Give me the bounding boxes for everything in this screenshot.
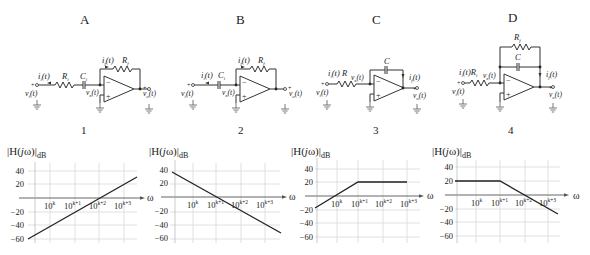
circuit-number-4: 4 xyxy=(508,124,514,136)
svg-text:10k: 10k xyxy=(331,198,343,209)
svg-text:Rf: Rf xyxy=(121,55,129,66)
svg-text:Ci: Ci xyxy=(218,70,226,81)
plot-title: |H(jω)|dB xyxy=(291,145,330,160)
opamp-b xyxy=(240,76,270,102)
opamp-c xyxy=(374,75,404,101)
plot-title: |H(jω)|dB xyxy=(432,145,471,160)
resistor-rf xyxy=(113,66,132,72)
resistor-rf xyxy=(512,44,531,50)
circuit-letter-b: B xyxy=(236,12,245,27)
plot-title: |H(jω)|dB xyxy=(149,145,188,160)
svg-text:40: 40 xyxy=(305,164,314,174)
svg-text:−40: −40 xyxy=(155,220,168,230)
circuit-letter-a: A xyxy=(80,12,90,27)
svg-text:ii(t)Ri: ii(t)Ri xyxy=(459,67,478,78)
figure: − + A 1 + xyxy=(0,0,590,255)
svg-text:−20: −20 xyxy=(11,207,24,217)
svg-text:vo(t): vo(t) xyxy=(413,91,426,101)
svg-text:20: 20 xyxy=(445,176,454,186)
svg-text:vo(t): vo(t) xyxy=(549,90,562,100)
svg-text:−40: −40 xyxy=(11,220,24,230)
omega-label: ω xyxy=(147,192,154,203)
current-arrow-icon xyxy=(402,74,405,78)
svg-text:vx(t): vx(t) xyxy=(86,88,99,98)
svg-text:+: + xyxy=(457,80,461,86)
svg-text:−20: −20 xyxy=(155,206,168,216)
svg-text:20: 20 xyxy=(305,177,314,187)
svg-text:10k+2: 10k+2 xyxy=(375,198,392,209)
svg-text:vo(t): vo(t) xyxy=(143,89,156,99)
svg-text:−60: −60 xyxy=(300,232,313,242)
bode-plot-2: |H(jω)|dB ω 40 20 −20 −40 −60 10k 10k+1 … xyxy=(149,145,296,243)
resistor-rf xyxy=(250,66,269,72)
svg-text:ii(t) R: ii(t) R xyxy=(328,68,348,79)
bode-plot-1: |H(jω)|dB ω 40 20 −20 −40 −60 10k 10k+1 … xyxy=(7,145,154,244)
svg-text:20: 20 xyxy=(16,179,25,189)
magnitude-line xyxy=(315,182,407,208)
svg-text:40: 40 xyxy=(160,165,169,175)
opamp-a xyxy=(104,76,134,102)
svg-text:ii(t): ii(t) xyxy=(38,71,50,82)
svg-text:+: + xyxy=(187,82,191,88)
svg-text:10k+3: 10k+3 xyxy=(114,200,131,211)
circuit-d: D 4 + Rf C ii(t)Ri vx(t) if(t) xyxy=(452,10,562,136)
svg-text:vx(t): vx(t) xyxy=(222,88,235,98)
svg-text:−40: −40 xyxy=(300,218,313,228)
svg-text:20: 20 xyxy=(160,178,169,188)
circuit-number-1: 1 xyxy=(81,124,87,136)
svg-text:10k+1: 10k+1 xyxy=(64,200,81,211)
svg-text:+: + xyxy=(321,81,325,87)
svg-text:Rf: Rf xyxy=(257,55,265,66)
svg-text:if(t): if(t) xyxy=(238,55,250,66)
circuit-number-3: 3 xyxy=(373,124,379,136)
svg-text:if(t): if(t) xyxy=(409,73,421,83)
svg-text:−60: −60 xyxy=(11,234,24,244)
svg-text:10k: 10k xyxy=(187,199,199,210)
omega-label: ω xyxy=(573,190,580,201)
circuit-letter-d: D xyxy=(508,10,517,25)
svg-text:if(t): if(t) xyxy=(102,55,114,66)
svg-text:10k+2: 10k+2 xyxy=(231,199,248,210)
svg-text:vo(t): vo(t) xyxy=(289,89,302,99)
svg-text:vi(t): vi(t) xyxy=(25,89,38,99)
svg-text:vi(t): vi(t) xyxy=(452,87,465,97)
circuit-a: A 1 + ii(t) Ri Ci if( xyxy=(25,12,151,136)
circuit-b: B 2 + vo(t) + ii(t) Ci if(t) Rf vx(t) vi… xyxy=(143,12,287,136)
svg-text:Rf: Rf xyxy=(513,32,521,43)
svg-text:vi(t): vi(t) xyxy=(316,88,329,98)
current-arrow-icon xyxy=(539,73,542,77)
bode-plot-3: |H(jω)|dB ω 40 20 −20 −40 −60 10k 10k+1 … xyxy=(291,145,434,243)
resistor-ri xyxy=(55,82,74,88)
svg-text:C: C xyxy=(515,52,521,62)
svg-text:vi(t): vi(t) xyxy=(181,89,194,99)
svg-text:−20: −20 xyxy=(300,205,313,215)
svg-text:10k: 10k xyxy=(44,200,56,211)
svg-text:−40: −40 xyxy=(440,217,453,227)
plot-title: |H(jω)|dB xyxy=(7,145,46,160)
svg-text:10k+2: 10k+2 xyxy=(89,200,106,211)
svg-text:−20: −20 xyxy=(440,204,453,214)
current-arrow-icon xyxy=(205,82,209,85)
svg-text:vx(t): vx(t) xyxy=(351,73,364,83)
svg-text:40: 40 xyxy=(16,166,25,176)
svg-text:C: C xyxy=(384,56,390,66)
current-arrow-icon xyxy=(47,82,51,85)
svg-text:−60: −60 xyxy=(155,233,168,243)
svg-text:10k: 10k xyxy=(471,197,483,208)
svg-text:+: + xyxy=(31,82,35,88)
svg-text:10k+1: 10k+1 xyxy=(351,198,368,209)
svg-text:Ri: Ri xyxy=(61,71,69,82)
svg-text:if(t): if(t) xyxy=(546,70,558,80)
omega-label: ω xyxy=(289,191,296,202)
circuit-number-2: 2 xyxy=(238,124,244,136)
svg-text:ii(t): ii(t) xyxy=(201,70,213,81)
circuit-letter-c: C xyxy=(372,12,381,27)
svg-text:40: 40 xyxy=(445,162,454,172)
svg-text:Ci: Ci xyxy=(80,71,88,82)
svg-text:−60: −60 xyxy=(440,231,453,241)
svg-text:10k+3: 10k+3 xyxy=(400,198,417,209)
omega-label: ω xyxy=(427,190,434,201)
bode-plot-4: |H(jω)|dB ω 40 20 −20 −40 −60 10k 10k+1 … xyxy=(432,145,580,243)
opamp-d xyxy=(504,74,534,100)
svg-text:vx(t): vx(t) xyxy=(483,71,496,81)
